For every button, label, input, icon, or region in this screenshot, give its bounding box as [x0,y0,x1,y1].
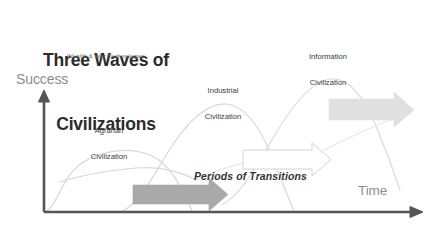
page-subtitle: Wealth & War Technologies [22,53,190,60]
wave-label-information: Information Civilization [287,36,369,104]
slide-canvas: Three Waves of Civilizations Wealth & Wa… [0,0,443,235]
periods-of-transitions-label: Periods of Transitions [194,171,307,183]
x-axis-label: Time [358,183,387,198]
wave-label-industrial-line2: Civilization [185,113,261,122]
transition-arrow-1 [133,178,228,211]
wave-label-agrarian-line1: Agrarian [72,127,146,136]
wave-label-information-line2: Civilization [287,79,369,88]
y-axis-label: Success [16,72,68,88]
wave-label-information-line1: Information [287,53,369,62]
wave-label-agrarian-line2: Civilization [72,153,146,162]
x-axis-arrowhead [410,207,423,218]
wave-label-industrial: Industrial Civilization [185,70,261,138]
wave-label-agrarian: Agrarian Civilization [72,110,146,178]
wave-label-industrial-line1: Industrial [185,87,261,96]
